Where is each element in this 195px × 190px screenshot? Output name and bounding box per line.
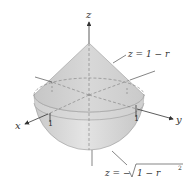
svg-text:2: 2	[178, 164, 182, 171]
hemisphere-label-leader	[112, 151, 127, 165]
x-axis-back	[35, 77, 52, 82]
y-axis-back	[130, 71, 155, 80]
hemisphere-equation-label: z = − 1 − r 2	[104, 164, 183, 178]
x-tick-label: 1	[48, 119, 53, 128]
y-axis	[137, 109, 173, 119]
cone-equation-label: z = 1 − r	[127, 49, 170, 59]
y-tick-label: 1	[134, 114, 139, 123]
cone-label-leader	[113, 55, 126, 63]
diagram-canvas: z x y 1 1 z = 1 − r z = − 1 − r 2	[0, 0, 195, 190]
x-axis-label: x	[15, 120, 21, 131]
svg-text:1 − r: 1 − r	[137, 168, 161, 178]
svg-text:z = −: z = −	[104, 168, 131, 178]
y-axis-label: y	[175, 114, 182, 125]
z-axis-label: z	[85, 9, 92, 20]
